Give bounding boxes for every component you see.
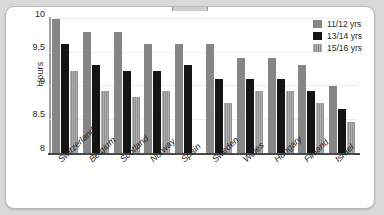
bar xyxy=(277,79,285,153)
bar xyxy=(215,79,223,153)
bar-chart: Hours 88.599.510 SwitzerlandBelgiumScotl… xyxy=(6,7,375,209)
legend-item: 15/16 yrs xyxy=(313,43,362,53)
legend-label: 11/12 yrs xyxy=(327,19,361,29)
legend-swatch xyxy=(313,32,322,40)
bar-group xyxy=(175,19,206,153)
y-axis-tick-label: 9.5 xyxy=(32,42,45,52)
bar-group xyxy=(206,19,237,153)
bar xyxy=(153,71,161,153)
bar xyxy=(184,65,192,153)
bar xyxy=(114,32,122,153)
y-axis-title: Hours xyxy=(35,44,45,104)
bar-group xyxy=(268,19,299,153)
bar xyxy=(52,19,60,153)
chart-legend: 11/12 yrs13/14 yrs15/16 yrs xyxy=(313,19,362,53)
bar-group xyxy=(52,19,83,153)
bar xyxy=(268,58,276,153)
legend-swatch xyxy=(313,44,322,52)
page-card: Hours 88.599.510 SwitzerlandBelgiumScotl… xyxy=(5,6,375,209)
y-axis-tick-label: 10 xyxy=(35,9,45,19)
bar xyxy=(61,44,69,153)
bar xyxy=(92,65,100,153)
bar-group xyxy=(237,19,268,153)
legend-swatch xyxy=(313,20,322,28)
legend-label: 13/14 yrs xyxy=(327,31,362,41)
legend-item: 13/14 yrs xyxy=(313,31,362,41)
y-axis-tick-label: 8 xyxy=(40,143,45,153)
y-axis-tick-label: 9 xyxy=(40,76,45,86)
legend-item: 11/12 yrs xyxy=(313,19,362,29)
bar xyxy=(123,71,131,153)
bar-group xyxy=(114,19,145,153)
bar xyxy=(175,44,183,153)
bar-group xyxy=(144,19,175,153)
legend-label: 15/16 yrs xyxy=(327,43,362,53)
bar xyxy=(206,44,214,153)
bar xyxy=(246,79,254,153)
y-axis-tick-label: 8.5 xyxy=(32,109,45,119)
y-axis-line xyxy=(49,17,51,155)
